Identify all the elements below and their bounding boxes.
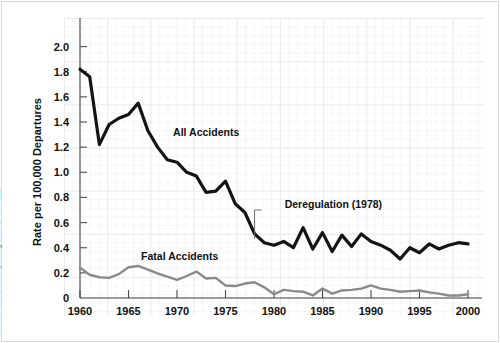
y-tick-label: 2.0 <box>54 41 69 53</box>
y-tick-label: 0.4 <box>54 242 70 254</box>
y-tick-label: 1.4 <box>54 116 70 128</box>
x-tick-label: 1970 <box>165 305 189 317</box>
y-tick-label: 1.2 <box>54 141 69 153</box>
x-tick-label: 1960 <box>68 305 92 317</box>
x-tick-label: 1965 <box>116 305 140 317</box>
y-tick-label: 0 <box>63 292 69 304</box>
series-line-all-accidents <box>80 69 468 259</box>
annotation-label-deregulation: Deregulation (1978) <box>285 198 382 210</box>
y-tick-label: 1.8 <box>54 66 69 78</box>
y-tick-label: 1.0 <box>54 166 69 178</box>
y-axis-title: Rate per 100,000 Departures <box>31 98 43 246</box>
series-label-all-accidents: All Accidents <box>173 126 239 138</box>
x-tick-label: 1975 <box>213 305 237 317</box>
series-label-fatal-accidents: Fatal Accidents <box>141 250 218 262</box>
y-tick-label: 0.2 <box>54 267 69 279</box>
x-tick-label: 1985 <box>310 305 334 317</box>
x-tick-label: 2000 <box>456 305 480 317</box>
x-tick-label: 1980 <box>262 305 286 317</box>
x-tick-label: 1990 <box>359 305 383 317</box>
figure-container: SOURCE: National Transportation Safety B… <box>0 0 500 343</box>
y-tick-label: 0.6 <box>54 217 69 229</box>
y-tick-label: 0.8 <box>54 191 69 203</box>
x-tick-label: 1995 <box>407 305 431 317</box>
line-chart: 00.20.40.60.81.01.21.41.61.82.0196019651… <box>0 0 500 343</box>
y-tick-label: 1.6 <box>54 91 69 103</box>
